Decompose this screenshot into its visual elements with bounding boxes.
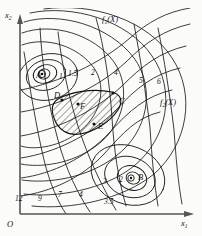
f2-level-labels: 12 9 7 4 3.5 3 2 (15, 175, 123, 206)
level-label-f2-4: 4 (79, 190, 83, 199)
point-label-A: A (35, 70, 42, 80)
x1-subscript: 1 (185, 223, 188, 229)
level-label-f1-6: 6 (157, 77, 161, 86)
contour-figure: 1 1.5 2 4 5 6 12 9 7 4 3.5 3 2 A B C D E… (0, 0, 202, 236)
x2-subscript: 2 (9, 15, 12, 21)
level-label-f2-7: 7 (58, 190, 62, 199)
level-label-f2-12: 12 (15, 194, 23, 203)
level-label-f1-4: 4 (114, 68, 118, 77)
level-label-f1-5: 5 (139, 76, 143, 85)
level-label-f2-9: 9 (38, 194, 42, 203)
marker-D-dot (60, 98, 63, 101)
x-axis-label: x1 (180, 218, 188, 229)
point-label-D: D (53, 90, 61, 100)
level-label-f1-2: 2 (91, 68, 95, 77)
point-label-B: B (138, 172, 143, 182)
function-label-f1: f1(X) (102, 14, 118, 25)
point-label-C: C (119, 96, 125, 106)
level-label-f1-1p5: 1.5 (68, 69, 78, 78)
origin-label: O (7, 219, 13, 229)
function-label-f2: f2(X) (160, 97, 176, 108)
level-label-f2-3p5: 3.5 (103, 197, 114, 206)
marker-C-dot (111, 91, 114, 94)
pareto-optimal-region (52, 90, 121, 134)
marker-B-dot (130, 177, 132, 179)
f2-arg: (X) (165, 97, 176, 107)
point-label-F: F (79, 101, 86, 111)
y-axis-arrowhead (17, 14, 23, 24)
level-label-f2-2: 2 (119, 175, 123, 184)
level-label-f2-3: 3 (102, 177, 107, 186)
f1-arg: (X) (107, 14, 118, 24)
point-label-E: E (97, 121, 104, 131)
y-axis-label: x2 (4, 10, 12, 21)
marker-E-dot (92, 122, 95, 125)
x-axis-arrowhead (184, 211, 194, 217)
contour-plot-canvas: 1 1.5 2 4 5 6 12 9 7 4 3.5 3 2 A B C D E… (0, 0, 202, 236)
level-label-f1-1: 1 (59, 72, 63, 81)
